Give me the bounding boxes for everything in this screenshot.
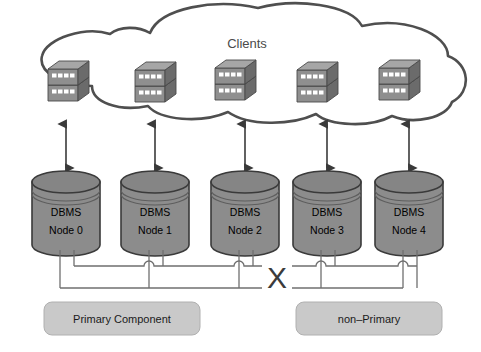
node-label-name: Node 0 bbox=[49, 224, 83, 236]
dbms-node-1[interactable]: DBMS Node 1 bbox=[121, 171, 189, 256]
cloud-label: Clients bbox=[227, 36, 267, 51]
group-boxes: Primary Component non–Primary bbox=[44, 302, 442, 335]
diagram-canvas: Clients bbox=[0, 0, 481, 352]
interconnect-wiring bbox=[60, 250, 417, 288]
primary-component-box[interactable]: Primary Component bbox=[44, 302, 200, 335]
dbms-node-4[interactable]: DBMS Node 4 bbox=[375, 171, 443, 256]
node-label-title: DBMS bbox=[230, 206, 260, 218]
server-stack-icon bbox=[379, 60, 420, 100]
dbms-node-3[interactable]: DBMS Node 3 bbox=[293, 171, 361, 256]
server-stack-icon bbox=[135, 62, 176, 102]
server-stack-icon bbox=[297, 62, 338, 102]
primary-component-label: Primary Component bbox=[73, 313, 171, 325]
node-label-title: DBMS bbox=[394, 206, 424, 218]
node-label-name: Node 2 bbox=[228, 224, 262, 236]
node-label-name: Node 1 bbox=[138, 224, 172, 236]
upper-bus-non-primary bbox=[292, 261, 417, 266]
dbms-node-0[interactable]: DBMS Node 0 bbox=[32, 171, 100, 256]
broken-link-x: X bbox=[267, 261, 287, 294]
node-label-title: DBMS bbox=[140, 206, 170, 218]
non-primary-box[interactable]: non–Primary bbox=[296, 302, 442, 335]
broken-link-marker: X bbox=[267, 261, 287, 294]
upper-bus-primary bbox=[74, 261, 262, 266]
server-stack-icon bbox=[215, 60, 256, 100]
dbms-nodes-group: DBMS Node 0 DBMS Node 1 DBMS Node 2 bbox=[32, 171, 443, 256]
node-label-name: Node 4 bbox=[392, 224, 426, 236]
node-label-name: Node 3 bbox=[310, 224, 344, 236]
cluster-diagram: Clients bbox=[0, 0, 481, 352]
non-primary-label: non–Primary bbox=[338, 313, 401, 325]
client-node-links bbox=[66, 124, 409, 168]
node-label-title: DBMS bbox=[312, 206, 342, 218]
node-label-title: DBMS bbox=[51, 206, 81, 218]
server-stack-icon bbox=[48, 61, 89, 101]
dbms-node-2[interactable]: DBMS Node 2 bbox=[211, 171, 279, 256]
